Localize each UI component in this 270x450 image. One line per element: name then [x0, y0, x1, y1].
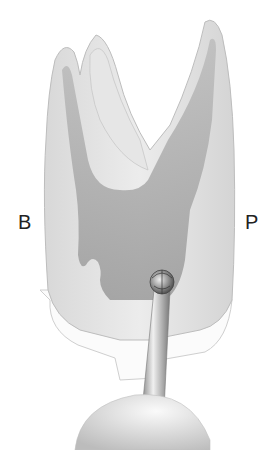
palatal-label: P — [245, 212, 258, 232]
handpiece-head — [75, 395, 210, 450]
buccal-label: B — [18, 212, 31, 232]
tooth-illustration — [0, 0, 270, 450]
